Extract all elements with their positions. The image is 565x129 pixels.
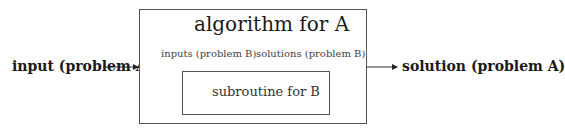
down-arrow-label: inputs (problem B) xyxy=(161,48,256,59)
outer-box-title: algorithm for A xyxy=(194,12,349,36)
input-label: input (problem A) xyxy=(12,58,153,74)
output-label: solution (problem A) xyxy=(402,58,565,74)
inner-box-title: subroutine for B xyxy=(212,84,320,99)
up-arrow-label: solutions (problem B) xyxy=(256,48,365,59)
